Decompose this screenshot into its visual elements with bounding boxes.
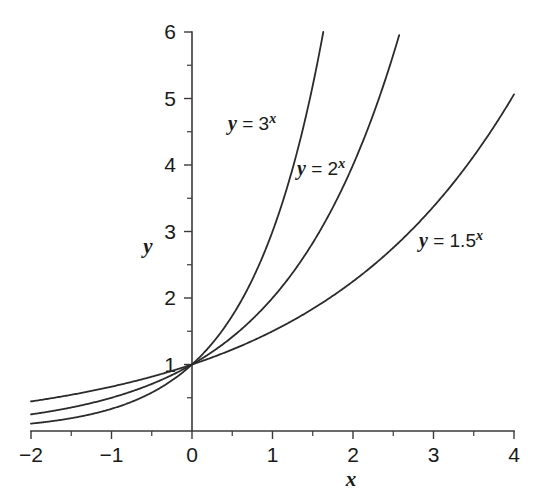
- x-tick-label: 0: [186, 443, 198, 466]
- y-tick-label: 4: [164, 153, 176, 176]
- x-tick-label: 4: [508, 443, 520, 466]
- x-tick-label: −1: [100, 443, 124, 466]
- curve-2: [31, 35, 399, 414]
- x-tick-label: 1: [267, 443, 279, 466]
- curve-annotations-group: y = 3xy = 2xy = 1.5x: [226, 111, 483, 252]
- y-axis-label: y: [140, 234, 153, 258]
- y-tick-label: 6: [164, 20, 176, 43]
- y-axis-tick-labels: 123456: [164, 20, 176, 376]
- curve-3: [31, 32, 323, 424]
- curves-group: [31, 32, 514, 424]
- y-tick-label: 5: [164, 87, 176, 110]
- x-tick-label: −2: [19, 443, 43, 466]
- y-tick-label: 2: [164, 286, 176, 309]
- x-tick-label: 3: [428, 443, 440, 466]
- exponential-functions-chart: −2−101234 123456 y = 3xy = 2xy = 1.5x y …: [0, 0, 547, 499]
- chart-page: −2−101234 123456 y = 3xy = 2xy = 1.5x y …: [0, 0, 547, 499]
- x-axis-label: x: [345, 467, 357, 491]
- x-tick-label: 2: [347, 443, 359, 466]
- curve-label: y = 3x: [226, 111, 276, 135]
- y-tick-label: 3: [164, 220, 176, 243]
- x-axis-ticks: [31, 431, 514, 439]
- y-axis-ticks: [184, 32, 192, 398]
- curve-label: y = 1.5x: [417, 228, 483, 252]
- x-axis-tick-labels: −2−101234: [19, 443, 520, 466]
- curve-label: y = 2x: [295, 156, 345, 180]
